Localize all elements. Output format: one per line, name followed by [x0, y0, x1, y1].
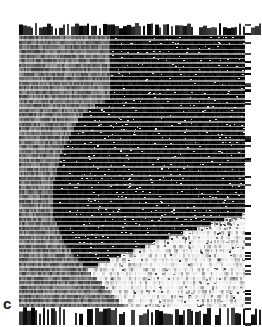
- heatmap-canvas: [19, 23, 247, 313]
- figure-panel: c: [0, 0, 262, 327]
- panel-label-c: c: [3, 295, 19, 313]
- heatmap-matrix: [19, 23, 247, 313]
